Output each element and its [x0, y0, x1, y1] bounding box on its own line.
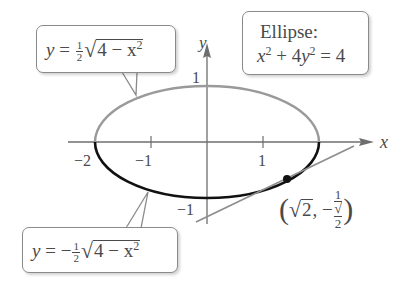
- fraction: 12: [72, 241, 80, 264]
- sqrt-icon: √: [81, 240, 93, 262]
- tick-label-yneg1: −1: [177, 201, 194, 218]
- fraction: 12: [76, 40, 84, 63]
- eq-lhs: y: [32, 240, 40, 261]
- lower-callout-pointer: [126, 192, 148, 228]
- tangent-point: [283, 175, 291, 183]
- fraction: 1√2: [334, 188, 343, 230]
- tick-label-y1: 1: [192, 69, 200, 86]
- upper-half-equation: y = 12√4 − x2: [46, 38, 143, 63]
- x-axis-arrow-icon: [359, 138, 374, 146]
- x-axis-label: x: [379, 132, 388, 152]
- ellipse-equation: x2 + 4y2 = 4: [257, 45, 345, 67]
- eq-sign: =: [45, 240, 56, 261]
- x-axis: [68, 138, 374, 146]
- lower-half-equation: y = −12√4 − x2: [32, 239, 140, 264]
- eq-sign: =: [59, 39, 70, 60]
- eq-lhs: y: [46, 39, 54, 60]
- y-axis-label: y: [197, 33, 207, 52]
- eq-minus: −: [61, 240, 72, 261]
- upper-half-callout: y = 12√4 − x2: [36, 25, 176, 73]
- sqrt-icon: √: [289, 199, 301, 221]
- tick-label-1: 1: [258, 152, 266, 169]
- radicand: 4 − x2: [96, 39, 143, 60]
- ellipse-title: Ellipse:: [260, 21, 318, 43]
- ellipse-equation-callout: Ellipse: x2 + 4y2 = 4: [242, 11, 369, 75]
- upper-callout-pointer: [122, 72, 137, 95]
- radicand: 4 − x2: [93, 240, 140, 261]
- tick-label-neg1: −1: [135, 152, 152, 169]
- tick-label-neg2: −2: [74, 152, 91, 169]
- point-label: (√2, −1√2): [279, 188, 353, 230]
- sqrt-icon: √: [84, 39, 96, 61]
- lower-half-callout: y = −12√4 − x2: [22, 227, 178, 273]
